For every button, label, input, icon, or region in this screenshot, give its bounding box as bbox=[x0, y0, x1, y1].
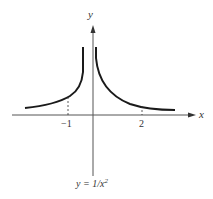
x-axis-arrow-icon bbox=[188, 113, 196, 118]
y-axis-arrow-icon bbox=[91, 25, 96, 33]
tick-label-neg1: −1 bbox=[61, 118, 72, 129]
graph-figure: y x −1 2 y = 1/x2 bbox=[0, 0, 213, 199]
function-caption: y = 1/x2 bbox=[75, 177, 108, 189]
curve-left-branch bbox=[25, 47, 83, 108]
curve-right-branch bbox=[96, 47, 175, 110]
x-axis-label: x bbox=[198, 108, 204, 120]
tick-label-2: 2 bbox=[139, 118, 144, 129]
y-axis-label: y bbox=[87, 8, 93, 20]
